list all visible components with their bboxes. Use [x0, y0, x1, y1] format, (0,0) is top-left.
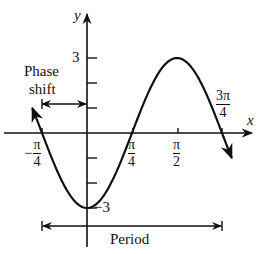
phase-shift-arrow: [42, 99, 86, 109]
y-axis-label: y: [74, 8, 81, 23]
x-tick-label-pi-2: π 2: [173, 138, 180, 169]
x-tick-label-pi-4: π 4: [128, 138, 135, 169]
sinusoid-graph: [0, 0, 266, 254]
period-arrow: [42, 221, 222, 231]
x-axis-label: x: [247, 113, 254, 128]
x-tick-label-3pi-4: 3π 4: [216, 89, 230, 120]
phase-shift-label-line2: shift: [29, 82, 56, 97]
y-tick-label-3: 3: [72, 50, 80, 65]
x-tick-label-neg-pi-4: − π 4: [24, 138, 41, 169]
phase-shift-label-line1: Phase: [24, 64, 59, 79]
period-label: Period: [110, 232, 149, 247]
y-tick-label-neg3: −3: [94, 200, 110, 215]
